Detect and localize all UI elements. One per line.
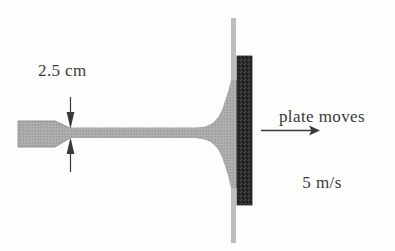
nozzle-body: [18, 121, 70, 147]
plate-motion-label: plate moves 5 m/s: [262, 62, 382, 216]
water-jet-stream: [69, 128, 201, 139]
flat-plate: [237, 56, 252, 205]
jet-diameter-label: 2.5 cm: [38, 61, 87, 81]
plate-motion-text: plate moves: [262, 106, 382, 128]
plate-speed-text: 5 m/s: [262, 172, 382, 194]
jet-deflection-spray: [197, 80, 238, 188]
